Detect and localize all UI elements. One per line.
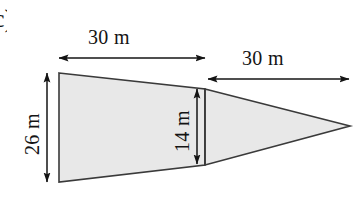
dimension-label-middle: 14 m (172, 110, 192, 152)
plot-shape-group (59, 73, 350, 182)
dimension-label-top-right: 30 m (242, 48, 284, 68)
geometry-figure (0, 0, 360, 201)
dimension-label-top-left: 30 m (88, 27, 130, 47)
figure-container: c) 30 m 30 m 26 m 14 m (0, 0, 360, 201)
dimension-label-left: 26 m (22, 113, 42, 155)
triangle-region (205, 89, 350, 165)
